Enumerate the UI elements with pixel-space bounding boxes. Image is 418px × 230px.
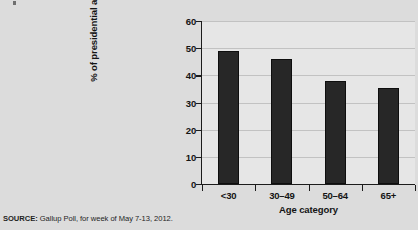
y-axis-tick-label: 0	[174, 179, 196, 190]
y-axis-tick-mark	[196, 21, 201, 22]
x-axis-tick-mark	[255, 185, 256, 191]
x-axis-tick-mark	[362, 185, 363, 191]
plot-area	[202, 21, 415, 184]
figure: % of presidential approval 0102030405060…	[0, 0, 418, 230]
y-axis-tick-label: 60	[174, 16, 196, 27]
paper-speck	[13, 1, 16, 5]
y-axis-tick-mark	[196, 157, 201, 158]
x-axis-tick-label: 50–64	[322, 190, 347, 201]
source-label: SOURCE:	[3, 214, 38, 223]
x-axis-tick-label: <30	[221, 190, 237, 201]
source-text: Gallup Poll, for week of May 7-13, 2012.	[38, 214, 173, 223]
y-axis-tick-labels: 0102030405060	[174, 4, 196, 186]
bar	[325, 81, 346, 184]
y-axis-tick-mark	[196, 184, 201, 185]
y-axis-title: % of presidential approval	[88, 0, 102, 104]
x-axis-tick-mark	[202, 185, 203, 191]
y-axis-tick-mark	[196, 130, 201, 131]
x-axis-tick-label: 65+	[381, 190, 397, 201]
bar-chart: % of presidential approval 0102030405060…	[160, 4, 416, 212]
y-axis-tick-mark	[196, 103, 201, 104]
y-axis-line	[201, 21, 202, 185]
y-axis-tick-mark	[196, 48, 201, 49]
y-axis-tick-label: 10	[174, 151, 196, 162]
x-axis-tick-mark	[415, 185, 416, 191]
source-note: SOURCE: Gallup Poll, for week of May 7-1…	[3, 214, 173, 223]
bar	[271, 59, 292, 184]
bar	[378, 88, 399, 184]
x-axis-tick-labels: <3030–4950–6465+	[202, 190, 415, 204]
y-axis-tick-label: 20	[174, 124, 196, 135]
x-axis-tick-mark	[309, 185, 310, 191]
y-axis-tick-label: 40	[174, 70, 196, 81]
bar	[218, 51, 239, 184]
y-axis-tick-label: 50	[174, 43, 196, 54]
gridline	[202, 21, 415, 22]
x-axis-title: Age category	[202, 204, 415, 215]
y-axis-tick-label: 30	[174, 97, 196, 108]
x-axis-tick-label: 30–49	[269, 190, 294, 201]
gridline	[202, 48, 415, 49]
y-axis-tick-mark	[196, 75, 201, 76]
